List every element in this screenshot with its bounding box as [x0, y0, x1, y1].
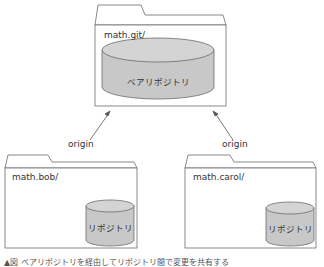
arrow-right-origin	[213, 111, 233, 140]
arrow-label-origin-left: origin	[68, 139, 94, 149]
folder-label-math-git: math.git/	[104, 30, 145, 40]
repo-label-carol: リポジトリ	[266, 222, 314, 234]
folder-label-math-carol: math.carol/	[193, 172, 244, 182]
repo-label-bare: ベアリポジトリ	[102, 75, 214, 87]
repo-cylinder-bare	[102, 38, 214, 99]
folder-label-math-bob: math.bob/	[12, 172, 58, 182]
arrow-label-origin-right: origin	[222, 139, 248, 149]
repo-label-bob: リポジトリ	[86, 221, 134, 233]
figure-caption: ▲図 ベアリポジトリを経由してリポジトリ間で変更を共有する	[4, 256, 229, 267]
arrow-left-origin	[90, 111, 110, 140]
